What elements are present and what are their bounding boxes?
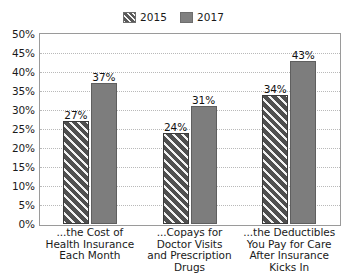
x-category-label-3: ...the DeductiblesYou Pay for CareAfter … [233, 227, 345, 273]
y-tick-label: 45% [0, 48, 35, 58]
x-category-line: ...Copays for [134, 227, 246, 239]
bar-value-label: 24% [164, 122, 187, 133]
y-axis: 0%5%10%15%20%25%30%35%40%45%50% [0, 33, 35, 224]
x-category-line: Each Month [34, 250, 146, 262]
legend-label-2015: 2015 [140, 12, 167, 23]
legend-swatch-2017 [180, 12, 193, 23]
y-tick-label: 10% [0, 181, 35, 191]
bar-2017-group-1[interactable]: 37% [91, 83, 117, 224]
y-tick-label: 40% [0, 67, 35, 77]
bar-chart: 2015 2017 0%5%10%15%20%25%30%35%40%45%50… [0, 0, 347, 277]
x-category-label-2: ...Copays forDoctor Visitsand Prescripti… [134, 227, 246, 273]
y-tick-label: 20% [0, 143, 35, 153]
y-tick-label: 30% [0, 105, 35, 115]
legend-item-2017[interactable]: 2017 [180, 12, 224, 23]
y-tick-label: 25% [0, 124, 35, 134]
x-category-line: ...the Cost of [34, 227, 146, 239]
bar-value-label: 37% [92, 72, 115, 83]
bar-2017-group-3[interactable]: 43% [290, 61, 316, 224]
y-tick-label: 5% [0, 200, 35, 210]
y-tick-label: 15% [0, 162, 35, 172]
bar-value-label: 31% [192, 95, 215, 106]
x-axis: ...the Cost ofHealth InsuranceEach Month… [40, 227, 339, 277]
bar-2015-group-2[interactable]: 24% [163, 133, 189, 224]
bar-value-label: 27% [64, 110, 87, 121]
x-category-line: ...the Deductibles [233, 227, 345, 239]
x-category-line: Kicks In [233, 262, 345, 274]
y-tick-label: 35% [0, 86, 35, 96]
chart-legend: 2015 2017 [0, 9, 347, 25]
bar-2017-group-2[interactable]: 31% [191, 106, 217, 224]
y-tick-label: 0% [0, 219, 35, 229]
x-category-label-1: ...the Cost ofHealth InsuranceEach Month [34, 227, 146, 262]
legend-swatch-2015 [123, 12, 136, 23]
legend-item-2015[interactable]: 2015 [123, 12, 167, 23]
legend-label-2017: 2017 [197, 12, 224, 23]
bar-value-label: 34% [264, 84, 287, 95]
bar-value-label: 43% [292, 50, 315, 61]
x-category-line: Drugs [134, 262, 246, 274]
y-tick-label: 50% [0, 29, 35, 39]
bars-layer: 27%37%24%31%34%43% [40, 34, 339, 224]
bar-2015-group-1[interactable]: 27% [63, 121, 89, 224]
bar-2015-group-3[interactable]: 34% [262, 95, 288, 224]
